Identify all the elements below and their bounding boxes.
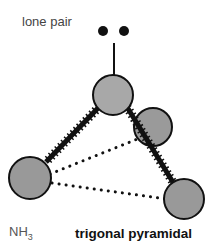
left-hydrogen-atom — [9, 157, 51, 199]
lone-pair-electron-icon — [119, 26, 129, 36]
formula-main: NH — [9, 224, 28, 239]
lone-pair-label: lone pair — [22, 14, 72, 29]
molecule-diagram — [0, 0, 222, 245]
lone-pair-electron-icon — [98, 26, 108, 36]
right-hydrogen-atom — [164, 179, 204, 219]
central-nitrogen-atom — [93, 75, 133, 115]
formula-label: NH3 — [9, 224, 33, 242]
formula-subscript: 3 — [28, 232, 33, 242]
bond-left — [46, 107, 99, 162]
geometry-label: trigonal pyramidal — [75, 226, 192, 241]
